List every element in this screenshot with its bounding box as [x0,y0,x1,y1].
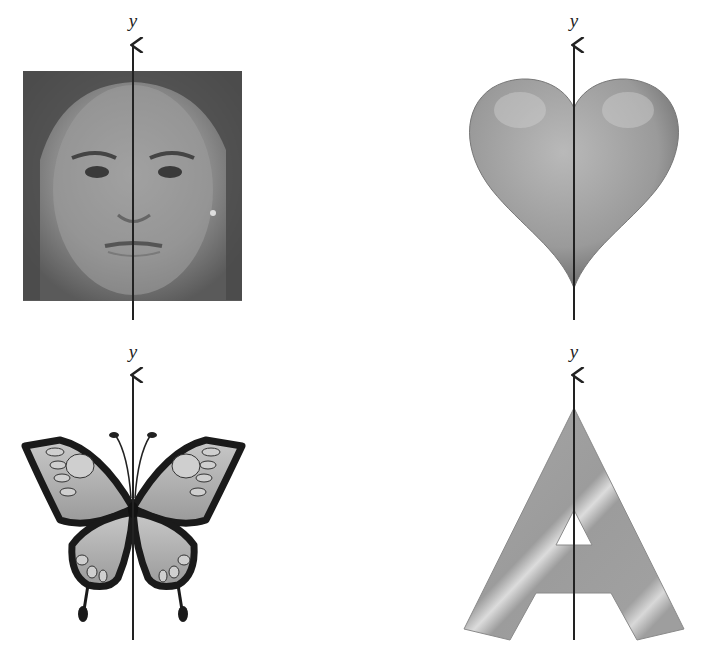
y-axis-label-face: y [129,10,137,32]
y-axis-label-letter-a: y [570,341,578,363]
y-axis-label-butterfly: y [129,341,137,363]
y-axis-label-heart: y [570,10,578,32]
figure-canvas [0,0,707,661]
